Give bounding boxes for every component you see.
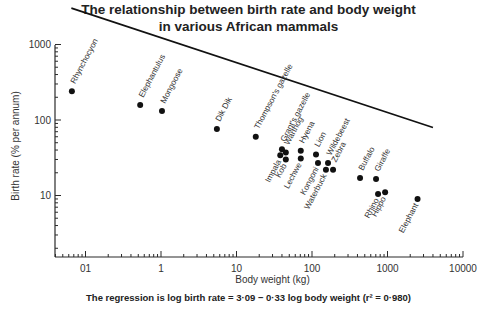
regression-line (71, 8, 433, 127)
data-point (283, 156, 289, 162)
point-labels: RhynchocyonElephantulusMongooseDik DikTh… (69, 37, 421, 235)
data-point (298, 148, 304, 154)
x-tick-label: 1 (158, 263, 164, 274)
x-tick-label: 01 (80, 263, 92, 274)
y-tick-label: 100 (34, 115, 51, 126)
y-tick-label: 1000 (29, 39, 52, 50)
data-point (214, 126, 220, 132)
data-point (298, 155, 304, 161)
data-point (415, 196, 421, 202)
data-point (69, 88, 75, 94)
data-point (323, 167, 329, 173)
x-axis-label: Body weight (kg) (235, 274, 309, 285)
x-tick-label: 10 (231, 263, 243, 274)
data-point (315, 160, 321, 166)
data-point (159, 108, 165, 114)
scatter-plot: 10100100001110100100010000Body weight (k… (0, 0, 497, 317)
point-label: Elephant (397, 201, 420, 234)
data-point (313, 151, 319, 157)
point-label: Mongoose (159, 66, 185, 104)
data-point (382, 189, 388, 195)
y-axis-label: Birth rate (% per annum) (10, 91, 21, 201)
data-point (373, 176, 379, 182)
data-point (330, 167, 336, 173)
data-point (357, 175, 363, 181)
data-point (137, 102, 143, 108)
x-tick-label: 100 (304, 263, 321, 274)
point-label: Lion (313, 130, 328, 148)
data-point (253, 134, 259, 140)
point-label: Rhynchocyon (69, 37, 100, 85)
data-point (283, 150, 289, 156)
x-tick-label: 10000 (449, 263, 477, 274)
data-point (277, 152, 283, 158)
y-tick-label: 10 (40, 190, 52, 201)
x-tick-label: 1000 (376, 263, 399, 274)
regression-footnote: The regression is log birth rate = 3·09 … (0, 292, 497, 303)
point-label: Dik Dik (214, 95, 235, 123)
data-point (325, 160, 331, 166)
